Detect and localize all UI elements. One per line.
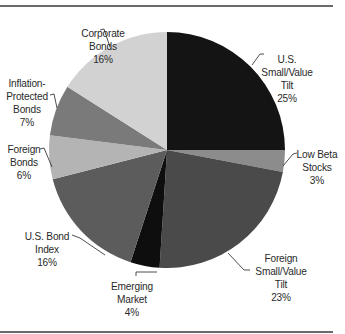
leader-line-foreign-small	[228, 253, 250, 270]
label-us-small-value-tilt: U.S. Small/Value Tilt 25%	[254, 53, 319, 105]
pie-slices	[49, 32, 285, 268]
label-low-beta-stocks: Low Beta Stocks 3%	[291, 148, 342, 187]
label-emerging-market: Emerging Market 4%	[105, 280, 160, 319]
label-foreign-bonds: Foreign Bonds 6%	[3, 143, 45, 182]
label-foreign-small-value-tilt: Foreign Small/Value Tilt 23%	[248, 252, 313, 304]
label-corporate-bonds: Corporate Bonds 16%	[72, 27, 134, 66]
bottom-rule	[0, 331, 333, 333]
leader-line-emerging	[136, 272, 157, 276]
leader-line-inflation	[50, 94, 57, 108]
label-us-bond-index: U.S. Bond Index 16%	[20, 230, 75, 269]
label-inflation-protected-bonds: Inflation- Protected Bonds 7%	[3, 77, 51, 129]
